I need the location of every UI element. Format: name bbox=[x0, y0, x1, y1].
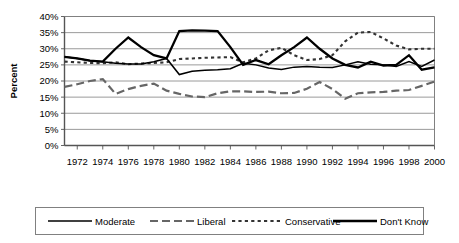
x-tick-label: 1982 bbox=[194, 156, 215, 167]
x-tick-label: 1996 bbox=[373, 156, 394, 167]
legend-label-liberal: Liberal bbox=[197, 216, 226, 227]
x-tick-label: 1976 bbox=[118, 156, 139, 167]
chart-canvas: 0%5%10%15%20%25%30%35%40% 19721974197619… bbox=[0, 0, 459, 243]
y-tick-label: 20% bbox=[39, 75, 59, 86]
chart-background bbox=[0, 0, 459, 243]
legend-label-conservative: Conservative bbox=[285, 216, 340, 227]
x-tick-label: 1992 bbox=[322, 156, 343, 167]
y-axis-title: Percent bbox=[8, 63, 19, 99]
x-tick-label: 1980 bbox=[169, 156, 190, 167]
legend-label-don-t-know: Don't Know bbox=[380, 216, 428, 227]
x-tick-label: 1984 bbox=[220, 156, 241, 167]
x-tick-label: 1994 bbox=[347, 156, 368, 167]
x-tick-label: 1978 bbox=[143, 156, 164, 167]
y-tick-label: 10% bbox=[39, 108, 59, 119]
y-tick-label: 30% bbox=[39, 43, 59, 54]
x-tick-label: 1974 bbox=[92, 156, 113, 167]
legend-label-moderate: Moderate bbox=[95, 216, 135, 227]
y-axis-title-label: Percent bbox=[8, 63, 19, 99]
x-tick-label: 1990 bbox=[296, 156, 317, 167]
line-chart: 0%5%10%15%20%25%30%35%40% 19721974197619… bbox=[0, 0, 459, 243]
y-tick-label: 40% bbox=[39, 11, 59, 22]
y-tick-label: 0% bbox=[45, 140, 59, 151]
y-tick-label: 15% bbox=[39, 92, 59, 103]
x-tick-label: 1986 bbox=[245, 156, 266, 167]
y-tick-label: 35% bbox=[39, 27, 59, 38]
x-tick-label: 1998 bbox=[398, 156, 419, 167]
x-tick-label: 1972 bbox=[67, 156, 88, 167]
x-tick-label: 1988 bbox=[271, 156, 292, 167]
y-tick-label: 25% bbox=[39, 59, 59, 70]
y-tick-label: 5% bbox=[45, 124, 59, 135]
x-tick-label: 2000 bbox=[424, 156, 445, 167]
